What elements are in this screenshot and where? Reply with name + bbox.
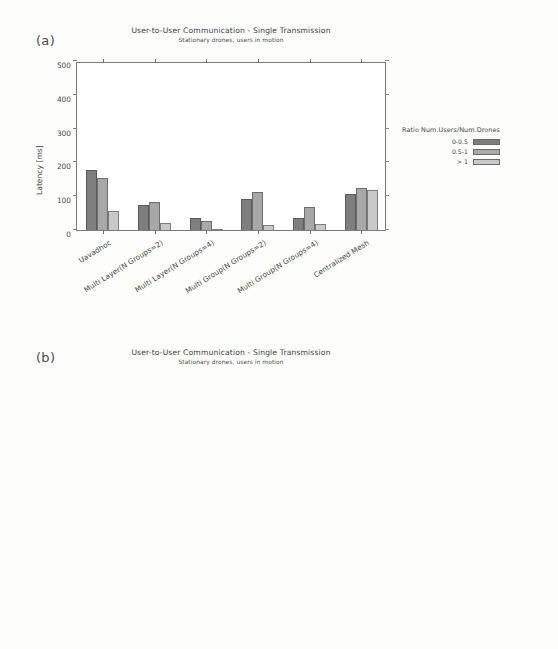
legend-swatch-0 [473, 139, 500, 145]
legend-entry-label: > 1 [440, 158, 468, 165]
y-tick-mark-right [385, 60, 389, 61]
y-tick-label: 0 [66, 230, 77, 239]
y-tick-mark [73, 229, 77, 230]
legend-rows: 0-0.50.5-1> 1 [402, 138, 500, 165]
bar [190, 218, 201, 230]
y-tick-label: 400 [57, 94, 77, 103]
bar [201, 221, 212, 230]
panel-a-subtitle: Stationary drones, users in motion [76, 37, 386, 43]
y-tick-label: 200 [57, 162, 77, 171]
bar [97, 178, 108, 230]
panel-b-subtitle: Stationary drones, users in motion [76, 359, 386, 365]
y-tick-label: 100 [57, 196, 77, 205]
x-tick-mark-top [258, 59, 259, 63]
bar [356, 188, 367, 230]
legend-entry-0: 0-0.5 [402, 138, 500, 145]
legend-entry-1: 0.5-1 [402, 148, 500, 155]
x-tick-mark-top [206, 59, 207, 63]
panel-b-titles: User-to-User Communication - Single Tran… [76, 348, 386, 365]
bar [315, 224, 326, 230]
panel-b: (b) User-to-User Communication - Single … [0, 312, 558, 649]
bar [304, 207, 315, 230]
figure-page: (a) User-to-User Communication - Single … [0, 0, 558, 649]
panel-a-plot-area: 0100200300400500 [76, 62, 386, 231]
y-tick-label: 300 [57, 128, 77, 137]
bar-group [77, 63, 129, 230]
bar [345, 194, 356, 231]
panel-a: (a) User-to-User Communication - Single … [0, 0, 558, 320]
x-tick-mark-top [103, 59, 104, 63]
panel-b-title: User-to-User Communication - Single Tran… [76, 348, 386, 357]
x-tick-mark-top [155, 59, 156, 63]
y-tick-mark-right [385, 128, 389, 129]
x-tick-mark [361, 230, 362, 234]
bar [263, 225, 274, 230]
bar [160, 223, 171, 230]
legend-title: Ratio Num.Users/Num.Drones [402, 126, 500, 134]
x-tick-label: Uavadhoc [77, 238, 113, 265]
legend-swatch-2 [473, 159, 500, 165]
panel-a-letter: (a) [36, 33, 55, 48]
x-tick-label: Centralized Mesh [312, 238, 371, 279]
y-tick-mark-right [385, 195, 389, 196]
y-tick-mark [73, 128, 77, 129]
bar [86, 170, 97, 231]
bar-group [180, 63, 232, 230]
panel-a-bars [77, 63, 385, 230]
legend-entry-label: 0-0.5 [440, 138, 468, 145]
bar [149, 202, 160, 230]
panel-b-letter: (b) [36, 350, 55, 365]
bar [212, 229, 223, 230]
x-tick-mark-top [310, 59, 311, 63]
bar-group [232, 63, 284, 230]
y-tick-mark [73, 94, 77, 95]
bar-group [129, 63, 181, 230]
bar-group [284, 63, 336, 230]
y-tick-mark [73, 161, 77, 162]
bar [108, 211, 119, 230]
legend-entry-2: > 1 [402, 158, 500, 165]
x-tick-mark [258, 230, 259, 234]
bar [367, 190, 378, 230]
y-tick-mark-right [385, 229, 389, 230]
y-tick-mark [73, 195, 77, 196]
bar-group [335, 63, 387, 230]
bar [138, 205, 149, 230]
x-tick-mark [310, 230, 311, 234]
legend-entry-label: 0.5-1 [440, 148, 468, 155]
panel-a-titles: User-to-User Communication - Single Tran… [76, 26, 386, 43]
legend-swatch-1 [473, 149, 500, 155]
panel-a-legend: Ratio Num.Users/Num.Drones 0-0.50.5-1> 1 [402, 126, 500, 168]
y-tick-mark-right [385, 161, 389, 162]
y-tick-mark-right [385, 94, 389, 95]
bar [252, 192, 263, 230]
x-tick-mark [103, 230, 104, 234]
panel-a-title: User-to-User Communication - Single Tran… [76, 26, 386, 35]
bar [241, 199, 252, 230]
bar [293, 218, 304, 230]
y-tick-label: 500 [57, 61, 77, 70]
y-tick-mark [73, 60, 77, 61]
x-tick-mark [155, 230, 156, 234]
x-tick-mark-top [361, 59, 362, 63]
x-tick-mark [206, 230, 207, 234]
panel-a-y-axis-label: Latency [ms] [35, 145, 44, 195]
